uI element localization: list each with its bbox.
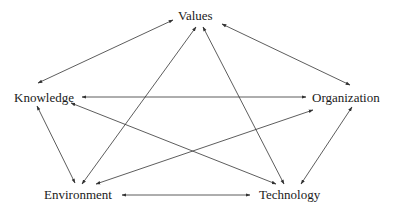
- edge-values-organization: [222, 24, 350, 85]
- edge-values-environment: [82, 27, 196, 184]
- edge-knowledge-technology: [71, 103, 276, 184]
- relationship-diagram: Values Knowledge Organization Environmen…: [0, 0, 395, 211]
- node-values: Values: [178, 9, 213, 23]
- node-environment: Environment: [44, 188, 112, 202]
- edge-knowledge-environment: [37, 106, 75, 183]
- edge-values-knowledge: [38, 20, 173, 83]
- node-organization: Organization: [312, 91, 380, 105]
- node-technology: Technology: [259, 188, 320, 202]
- edge-organization-technology: [301, 107, 352, 184]
- edge-organization-environment: [96, 110, 313, 184]
- node-knowledge: Knowledge: [14, 91, 74, 105]
- edges-layer: [0, 0, 395, 211]
- edge-values-technology: [203, 27, 284, 184]
